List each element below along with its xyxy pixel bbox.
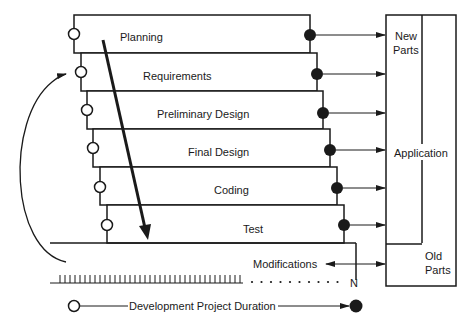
feedback-loop-arrow — [20, 74, 66, 262]
dot-mark — [327, 281, 329, 283]
filled-circle-icon — [338, 219, 350, 231]
modifications: Modifications — [253, 258, 385, 270]
dot-mark — [260, 281, 262, 283]
application-label: Application — [394, 147, 448, 159]
application-box: New Parts Application Old Parts — [386, 15, 456, 286]
open-circle-icon — [102, 220, 113, 231]
filled-circle-icon — [311, 68, 323, 80]
phase-planning: Planning — [74, 15, 310, 53]
old-parts-label: Parts — [425, 264, 451, 276]
dot-mark — [279, 281, 281, 283]
modifications-label: Modifications — [253, 258, 318, 270]
filled-circle-icon — [304, 29, 316, 41]
phase-requirements: Requirements — [81, 53, 317, 91]
phase-label: Final Design — [188, 146, 249, 158]
filled-circle-icon — [350, 300, 363, 313]
timeline: N — [50, 275, 358, 289]
open-circle-icon — [95, 182, 106, 193]
dot-mark — [317, 281, 319, 283]
phase-label: Planning — [120, 31, 163, 43]
open-circle-icon — [76, 67, 87, 78]
legend-label: Development Project Duration — [129, 300, 276, 312]
new-parts-label: Parts — [393, 44, 419, 56]
timeline-end-label: N — [350, 277, 358, 289]
open-circle-icon — [69, 29, 80, 40]
phase-label: Coding — [214, 184, 249, 196]
software-lifecycle-diagram: Planning Requirements Preliminary Design… — [0, 0, 466, 326]
open-circle-icon — [69, 301, 80, 312]
phase-label: Requirements — [143, 70, 212, 82]
filled-circle-icon — [324, 144, 336, 156]
new-parts-label: New — [395, 30, 417, 42]
dot-mark — [251, 281, 253, 283]
dot-mark — [336, 281, 338, 283]
old-parts-label: Old — [425, 250, 442, 262]
phase-label: Test — [243, 223, 263, 235]
dot-mark — [289, 281, 291, 283]
dot-mark — [298, 281, 300, 283]
open-circle-icon — [82, 105, 93, 116]
filled-circle-icon — [317, 107, 329, 119]
filled-circle-icon — [331, 182, 343, 194]
dot-mark — [270, 281, 272, 283]
legend: Development Project Duration — [69, 300, 363, 313]
phase-label: Preliminary Design — [157, 108, 249, 120]
open-circle-icon — [88, 143, 99, 154]
dot-mark — [308, 281, 310, 283]
